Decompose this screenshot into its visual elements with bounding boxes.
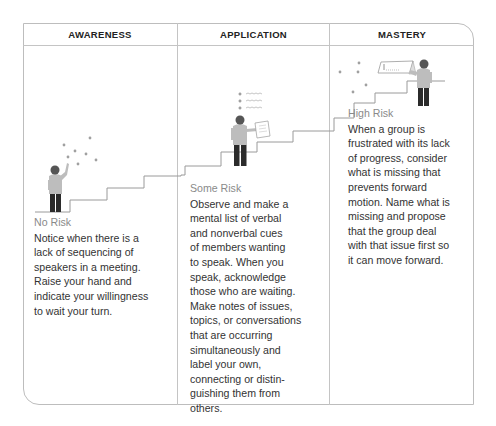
text-line: that are occurring — [190, 328, 326, 343]
text-line: motion. Name what is — [348, 195, 472, 210]
text-line: those who are waiting. — [190, 284, 326, 299]
application-description: Some Risk Observe and make a mental list… — [190, 181, 326, 416]
text-line: Notice when there is a — [34, 231, 174, 246]
text-line: that the group deal — [348, 224, 472, 239]
text-line: topics, or conversations — [190, 313, 326, 328]
header-mastery: MASTERY — [330, 23, 474, 45]
text-line: Make notes of issues, — [190, 299, 326, 314]
text-line: with that issue first so — [348, 238, 472, 253]
text-line: of members wanting — [190, 240, 326, 255]
mastery-description: High Risk When a group is frustrated wit… — [348, 106, 472, 268]
text-line: Observe and make a — [190, 197, 326, 212]
text-line: When a group is — [348, 122, 472, 137]
column-divider — [329, 23, 330, 405]
awareness-description: No Risk Notice when there is a lack of s… — [34, 215, 174, 318]
text-line: speakers in a meeting. — [34, 260, 174, 275]
header-application: APPLICATION — [178, 23, 329, 45]
text-line: speak, acknowledge — [190, 270, 326, 285]
text-line: simultaneously and — [190, 343, 326, 358]
text-line: to speak. When you — [190, 255, 326, 270]
text-line: mental list of verbal — [190, 211, 326, 226]
text-line: it can move forward. — [348, 253, 472, 268]
header-awareness: AWARENESS — [23, 23, 177, 45]
text-line: to wait your turn. — [34, 304, 174, 319]
text-line: others. — [190, 401, 326, 416]
text-line: guishing them from — [190, 386, 326, 401]
text-line: connecting or distin- — [190, 372, 326, 387]
text-line: indicate your willingness — [34, 289, 174, 304]
text-line: what is missing that — [348, 165, 472, 180]
text-line: label your own, — [190, 357, 326, 372]
header-divider — [23, 45, 474, 46]
text-line: lack of sequencing of — [34, 245, 174, 260]
risk-level-label: High Risk — [348, 106, 472, 121]
risk-level-label: No Risk — [34, 215, 174, 230]
text-line: missing and propose — [348, 209, 472, 224]
risk-level-label: Some Risk — [190, 181, 326, 196]
text-line: frustrated with its lack — [348, 136, 472, 151]
text-line: prevents forward — [348, 180, 472, 195]
text-line: of progress, consider — [348, 151, 472, 166]
text-line: and nonverbal cues — [190, 226, 326, 241]
text-line: Raise your hand and — [34, 274, 174, 289]
column-divider — [177, 23, 178, 405]
